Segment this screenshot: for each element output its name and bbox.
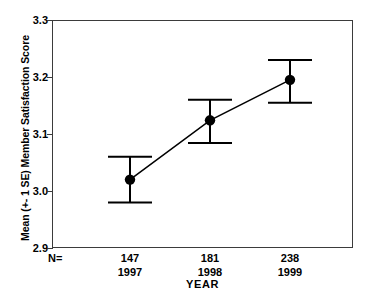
x-group-n-1999: 238 bbox=[250, 252, 330, 266]
y-tick-mark-2-9 bbox=[47, 248, 53, 249]
series-satisfaction bbox=[108, 60, 312, 203]
y-tick-label-3-0: 3.0 bbox=[6, 186, 48, 197]
x-axis-title: YEAR bbox=[52, 278, 353, 290]
data-point-1998 bbox=[205, 115, 215, 125]
data-point-1999 bbox=[285, 75, 295, 85]
y-tick-label-3-3: 3.3 bbox=[6, 15, 48, 26]
chart-figure: Mean (+- 1 SE) Member Satisfaction Score… bbox=[0, 0, 366, 299]
x-group-1998: 181 1998 bbox=[170, 252, 250, 279]
x-group-year-1998: 1998 bbox=[170, 266, 250, 280]
x-group-1999: 238 1999 bbox=[250, 252, 330, 279]
plot-area bbox=[52, 20, 353, 248]
x-group-n-1998: 181 bbox=[170, 252, 250, 266]
x-group-n-1997: 147 bbox=[90, 252, 170, 266]
y-tick-label-3-2: 3.2 bbox=[6, 72, 48, 83]
y-tick-label-2-9: 2.9 bbox=[6, 243, 48, 254]
x-group-1997: 147 1997 bbox=[90, 252, 170, 279]
x-group-year-1999: 1999 bbox=[250, 266, 330, 280]
data-point-1997 bbox=[125, 174, 135, 184]
y-tick-label-3-1: 3.1 bbox=[6, 129, 48, 140]
x-group-year-1997: 1997 bbox=[90, 266, 170, 280]
y-tick-label-group: 2.9 3.0 3.1 3.2 3.3 bbox=[0, 0, 48, 299]
n-prefix-label: N= bbox=[48, 252, 62, 266]
